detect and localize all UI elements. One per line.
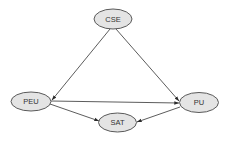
path-diagram: CSEPEUPUSAT (0, 0, 228, 142)
node-cse: CSE (94, 9, 132, 29)
arrow-line (116, 29, 179, 101)
node-label: PEU (23, 97, 38, 106)
edge-pu-to-sat (137, 107, 180, 122)
arrow-line (52, 29, 110, 100)
edge-cse-to-pu (116, 29, 179, 101)
nodes: CSEPEUPUSAT (11, 9, 219, 132)
node-label: CSE (105, 15, 120, 24)
node-peu: PEU (11, 92, 51, 111)
arrow-line (137, 107, 180, 122)
arrow-line (50, 104, 99, 121)
node-pu: PU (180, 93, 219, 113)
edge-cse-to-peu (52, 29, 110, 100)
node-label: PU (194, 98, 204, 107)
arrow-line (51, 101, 179, 103)
edge-peu-to-sat (50, 104, 99, 121)
node-label: SAT (110, 118, 124, 127)
edge-peu-to-pu (51, 101, 179, 103)
node-sat: SAT (99, 113, 137, 132)
edges (50, 29, 180, 122)
